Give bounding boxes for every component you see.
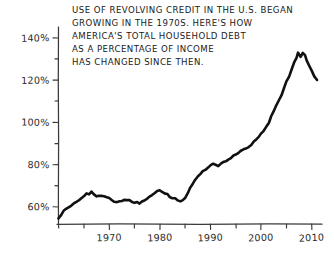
annotation-text-block: USE OF REVOLVING CREDIT IN THE U.S. BEGA… — [72, 5, 293, 67]
annotation-line-5: HAS CHANGED SINCE THEN. — [72, 57, 204, 67]
annotation-line-2: GROWING IN THE 1970S. HERE'S HOW — [72, 18, 253, 28]
y-axis: 60%80%100%120%140% — [21, 27, 58, 224]
y-tick-label: 140% — [21, 32, 49, 43]
annotation-line-3: AMERICA'S TOTAL HOUSEHOLD DEBT — [72, 31, 246, 41]
chart-figure: USE OF REVOLVING CREDIT IN THE U.S. BEGA… — [0, 0, 334, 254]
data-series-group — [58, 53, 317, 219]
debt-to-income-line — [58, 53, 317, 219]
x-tick-label: 1970 — [96, 232, 121, 244]
x-axis-line — [57, 224, 322, 225]
annotation-line-1: USE OF REVOLVING CREDIT IN THE U.S. BEGA… — [72, 5, 293, 15]
y-axis-tick-labels: 60%80%100%120%140% — [21, 32, 49, 212]
x-tick-label: 2000 — [248, 232, 274, 244]
y-axis-tick-marks — [53, 38, 59, 207]
y-tick-label: 60% — [27, 201, 49, 212]
x-axis: 19701980199020002010 — [57, 224, 324, 244]
x-axis-tick-marks — [59, 224, 312, 230]
y-tick-label: 120% — [21, 74, 49, 85]
x-axis-tick-labels: 19701980199020002010 — [96, 231, 324, 243]
x-tick-label: 2010 — [299, 231, 325, 243]
x-tick-label: 1980 — [147, 231, 173, 243]
annotation-line-4: AS A PERCENTAGE OF INCOME — [72, 44, 214, 54]
chart-canvas: USE OF REVOLVING CREDIT IN THE U.S. BEGA… — [0, 0, 334, 254]
y-tick-label: 80% — [28, 159, 50, 170]
y-tick-label: 100% — [21, 116, 49, 127]
x-tick-label: 1990 — [197, 232, 223, 244]
